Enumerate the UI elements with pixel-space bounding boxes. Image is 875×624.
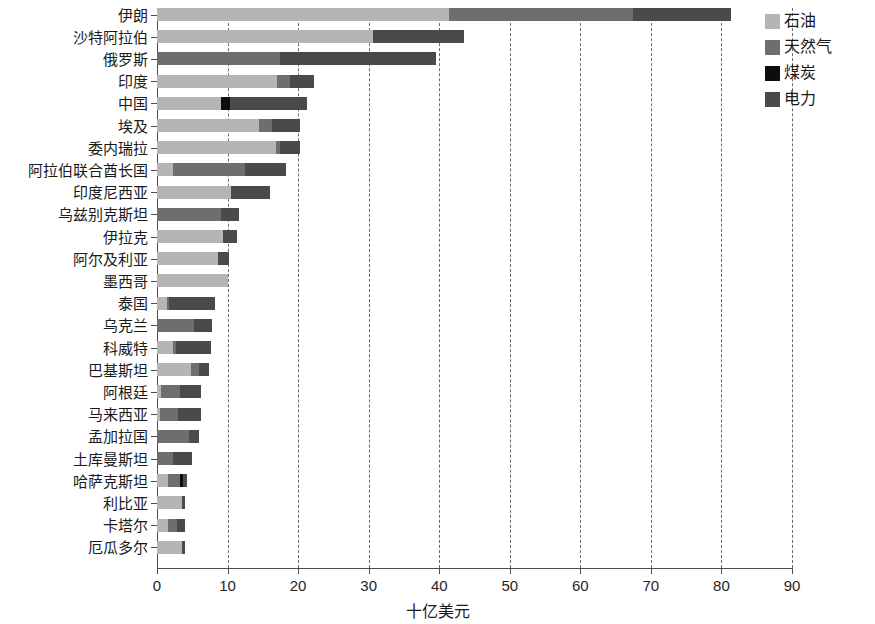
x-axis-tick bbox=[439, 568, 440, 574]
category-label: 科威特 bbox=[103, 340, 148, 355]
x-axis-tick bbox=[792, 568, 793, 574]
x-axis-spine bbox=[157, 568, 793, 569]
x-axis-tick bbox=[228, 568, 229, 574]
gridline bbox=[369, 8, 370, 568]
bar-segment-oil bbox=[157, 274, 228, 287]
legend-swatch-icon bbox=[765, 40, 780, 55]
bar-segment-power bbox=[180, 385, 202, 398]
bar-segment-power bbox=[182, 541, 186, 554]
category-axis-labels: 伊朗沙特阿拉伯俄罗斯印度中国埃及委内瑞拉阿拉伯联合酋长国印度尼西亚乌兹别克斯坦伊… bbox=[0, 0, 152, 624]
bar-segment-power bbox=[176, 341, 211, 354]
bar-segment-power bbox=[182, 496, 186, 509]
x-axis-tick-label: 30 bbox=[360, 577, 377, 594]
bar-segment-oil bbox=[157, 75, 277, 88]
chart-legend: 石油天然气煤炭电力 bbox=[765, 8, 873, 112]
gridline bbox=[651, 8, 652, 568]
x-axis-tick bbox=[580, 568, 581, 574]
bar-segment-oil bbox=[157, 230, 223, 243]
legend-label: 石油 bbox=[784, 13, 816, 29]
category-label: 乌兹别克斯坦 bbox=[58, 207, 148, 222]
bar-segment-power bbox=[173, 452, 192, 465]
bar-segment-power bbox=[223, 230, 237, 243]
category-label: 利比亚 bbox=[103, 495, 148, 510]
bar-segment-oil bbox=[157, 141, 276, 154]
category-label: 阿尔及利亚 bbox=[73, 251, 148, 266]
bar-segment-oil bbox=[157, 8, 449, 21]
bar-segment-power bbox=[231, 186, 270, 199]
bar-segment-power bbox=[178, 408, 201, 421]
gridline bbox=[580, 8, 581, 568]
bar-segment-oil bbox=[157, 474, 168, 487]
category-label: 乌克兰 bbox=[103, 318, 148, 333]
x-axis-tick bbox=[651, 568, 652, 574]
x-axis-tick bbox=[721, 568, 722, 574]
bar-segment-gas bbox=[173, 163, 245, 176]
bar-segment-power bbox=[245, 163, 286, 176]
legend-swatch-icon bbox=[765, 92, 780, 107]
category-label: 马来西亚 bbox=[88, 407, 148, 422]
category-label: 墨西哥 bbox=[103, 273, 148, 288]
x-axis-tick-label: 80 bbox=[713, 577, 730, 594]
bar-segment-gas bbox=[168, 519, 177, 532]
x-axis-tick bbox=[157, 568, 158, 574]
bar-segment-oil bbox=[157, 186, 231, 199]
legend-item[interactable]: 石油 bbox=[765, 8, 873, 34]
category-label: 卡塔尔 bbox=[103, 518, 148, 533]
bar-segment-power bbox=[218, 252, 229, 265]
category-label: 印度 bbox=[118, 74, 148, 89]
bar-segment-gas bbox=[157, 452, 173, 465]
legend-item[interactable]: 煤炭 bbox=[765, 60, 873, 86]
gridline bbox=[510, 8, 511, 568]
x-axis-tick-label: 60 bbox=[572, 577, 589, 594]
legend-label: 天然气 bbox=[784, 39, 832, 55]
bar-segment-power bbox=[633, 8, 732, 21]
x-axis-tick bbox=[369, 568, 370, 574]
x-axis-tick bbox=[298, 568, 299, 574]
bar-segment-power bbox=[183, 474, 187, 487]
bar-segment-power bbox=[194, 319, 212, 332]
bar-segment-power bbox=[280, 52, 435, 65]
category-label: 伊朗 bbox=[118, 7, 148, 22]
category-label: 伊拉克 bbox=[103, 229, 148, 244]
category-label: 巴基斯坦 bbox=[88, 362, 148, 377]
gridline bbox=[298, 8, 299, 568]
bar-segment-gas bbox=[157, 208, 221, 221]
bar-segment-gas bbox=[277, 75, 290, 88]
category-label: 沙特阿拉伯 bbox=[73, 29, 148, 44]
category-label: 印度尼西亚 bbox=[73, 185, 148, 200]
legend-item[interactable]: 天然气 bbox=[765, 34, 873, 60]
bar-segment-oil bbox=[157, 30, 373, 43]
bar-segment-power bbox=[169, 297, 215, 310]
bar-segment-gas bbox=[168, 474, 180, 487]
bar-segment-power bbox=[230, 97, 308, 110]
bar-segment-oil bbox=[157, 496, 182, 509]
bar-segment-gas bbox=[157, 430, 189, 443]
legend-item[interactable]: 电力 bbox=[765, 86, 873, 112]
x-axis-tick-label: 0 bbox=[153, 577, 161, 594]
gridline bbox=[721, 8, 722, 568]
gridline bbox=[228, 8, 229, 568]
category-label: 埃及 bbox=[118, 118, 148, 133]
bar-segment-gas bbox=[449, 8, 632, 21]
bar-segment-power bbox=[373, 30, 464, 43]
x-axis-tick-label: 50 bbox=[501, 577, 518, 594]
bar-segment-power bbox=[177, 519, 185, 532]
x-axis-title: 十亿美元 bbox=[0, 598, 875, 622]
bar-segment-gas bbox=[157, 319, 194, 332]
bar-segment-gas bbox=[161, 385, 180, 398]
category-label: 委内瑞拉 bbox=[88, 140, 148, 155]
bar-segment-gas bbox=[157, 52, 280, 65]
gridline bbox=[439, 8, 440, 568]
x-axis-tick-label: 70 bbox=[643, 577, 660, 594]
bar-segment-gas bbox=[191, 363, 199, 376]
category-label: 土库曼斯坦 bbox=[73, 451, 148, 466]
x-axis-tick-label: 20 bbox=[290, 577, 307, 594]
x-axis-tick-label: 10 bbox=[219, 577, 236, 594]
bar-segment-oil bbox=[157, 363, 191, 376]
x-axis-tick-label: 90 bbox=[784, 577, 801, 594]
category-label: 哈萨克斯坦 bbox=[73, 473, 148, 488]
category-label: 中国 bbox=[118, 96, 148, 111]
category-label: 阿根廷 bbox=[103, 384, 148, 399]
legend-swatch-icon bbox=[765, 14, 780, 29]
bar-segment-power bbox=[189, 430, 199, 443]
